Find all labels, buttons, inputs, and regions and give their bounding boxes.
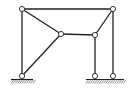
ground-hatch bbox=[24, 80, 26, 83]
ground-hatch bbox=[115, 80, 117, 83]
ground-hatch bbox=[93, 80, 95, 83]
structural-diagram bbox=[0, 0, 131, 93]
ground-hatch bbox=[15, 80, 17, 83]
hinge-node-B bbox=[110, 6, 115, 11]
ground-hatch bbox=[11, 80, 13, 83]
ground-hatch bbox=[20, 80, 22, 83]
ground-hatch bbox=[90, 80, 92, 83]
hinge-node-A bbox=[19, 6, 24, 11]
ground-hatch bbox=[13, 80, 15, 83]
hinge-node-C bbox=[58, 31, 63, 36]
ground-hatch bbox=[123, 80, 125, 83]
hinge-node-F bbox=[92, 73, 97, 78]
ground-hatch bbox=[117, 80, 119, 83]
ground-hatch bbox=[101, 80, 103, 83]
members-group bbox=[22, 9, 113, 76]
ground-supports-group bbox=[11, 80, 126, 84]
member-D-B bbox=[95, 9, 113, 35]
member-A-C bbox=[22, 9, 61, 34]
ground-hatch bbox=[95, 80, 97, 83]
hinge-node-G bbox=[110, 73, 115, 78]
ground-hatch bbox=[33, 80, 35, 83]
ground-hatch bbox=[26, 80, 28, 83]
ground-hatch bbox=[18, 80, 20, 83]
ground-hatch bbox=[97, 80, 99, 83]
ground-hatch bbox=[88, 80, 90, 83]
ground-hatch bbox=[119, 80, 121, 83]
ground-hatch bbox=[22, 80, 24, 83]
ground-hatch bbox=[86, 80, 88, 83]
ground-hatch bbox=[106, 80, 108, 83]
hinge-node-D bbox=[92, 32, 97, 37]
ground-hatch bbox=[121, 80, 123, 83]
member-C-D bbox=[61, 34, 95, 35]
ground-hatch bbox=[112, 80, 114, 83]
ground-hatch bbox=[31, 80, 33, 83]
ground-hatch bbox=[29, 80, 31, 83]
ground-hatch bbox=[108, 80, 110, 83]
hinge-node-E bbox=[19, 73, 24, 78]
member-C-E bbox=[22, 34, 61, 76]
ground-hatch bbox=[99, 80, 101, 83]
ground-hatch bbox=[104, 80, 106, 83]
ground-hatch bbox=[110, 80, 112, 83]
